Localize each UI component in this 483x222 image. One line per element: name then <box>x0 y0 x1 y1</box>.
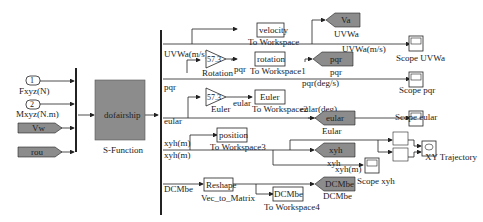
inport-mxyz[interactable]: 2 Mxyz(N.m) <box>16 100 59 119</box>
svg-text:xyh: xyh <box>329 145 343 155</box>
goto-dcmbe[interactable]: DCMbe DCMbe <box>315 177 355 201</box>
svg-text:DCMbe: DCMbe <box>274 189 303 199</box>
svg-text:pqr: pqr <box>330 54 342 64</box>
to-workspace-velocity[interactable]: velocity To Workspace <box>248 23 299 47</box>
svg-text:To Workspace4: To Workspace4 <box>264 202 320 212</box>
svg-text:eular: eular <box>326 113 344 123</box>
from-rou[interactable]: rou <box>18 147 62 157</box>
svg-text:57.3: 57.3 <box>207 55 221 64</box>
svg-text:To Workspace3: To Workspace3 <box>210 142 266 152</box>
goto-pqr[interactable]: pqr pqr <box>313 52 353 77</box>
inport-fxyz[interactable]: 1 Fxyz(N) <box>19 76 50 96</box>
gain-euler[interactable]: 57.3 Euler <box>206 88 231 114</box>
signal-label-xyh1: xyh(m) <box>164 138 191 148</box>
svg-text:2: 2 <box>30 100 34 109</box>
svg-text:To Workspace2: To Workspace2 <box>252 104 308 114</box>
svg-text:DCMbe: DCMbe <box>325 179 354 189</box>
svg-text:Euler: Euler <box>260 92 280 102</box>
scope-xy-trajectory[interactable]: XY Trajectory <box>422 141 477 162</box>
svg-text:position: position <box>219 130 249 140</box>
svg-text:velocity: velocity <box>259 25 288 35</box>
scope-xyh[interactable]: Scope xyh <box>357 158 395 186</box>
reshape-block[interactable]: Reshape Vec_to_Matrix <box>201 178 255 203</box>
signal-label-dcmbe: DCMbe <box>164 184 193 194</box>
scope-pqr[interactable]: Scope pqr <box>399 72 435 95</box>
goto-va[interactable]: Va UVWa <box>326 13 360 39</box>
svg-text:Va: Va <box>341 15 351 25</box>
svg-text:Vw: Vw <box>32 123 45 133</box>
scope-uvwa[interactable]: Scope UVWa <box>396 36 445 63</box>
svg-text:dofairship: dofairship <box>104 110 141 120</box>
to-workspace-position[interactable]: position To Workspace3 <box>210 128 266 152</box>
svg-text:To Workspace: To Workspace <box>248 37 299 47</box>
signal-label-pqr: pqr <box>164 82 176 92</box>
svg-text:Reshape: Reshape <box>206 180 237 190</box>
svg-text:Rotation: Rotation <box>202 68 233 78</box>
svg-text:xyh: xyh <box>327 158 341 168</box>
to-workspace-dcmbe[interactable]: DCMbe To Workspace4 <box>264 187 320 212</box>
signal-label-eular: eular <box>164 116 182 126</box>
svg-text:Scope pqr: Scope pqr <box>399 85 435 95</box>
signal-label-xyh2: xyh(m) <box>164 150 191 160</box>
s-function-block[interactable]: dofairship S-Function <box>95 80 145 155</box>
to-workspace-rotation[interactable]: rotation To Workspace1 <box>250 52 306 76</box>
svg-text:DCMbe: DCMbe <box>323 191 352 201</box>
signal-label-uvwa: UVWa(m/s) <box>164 49 208 59</box>
svg-text:To Workspace1: To Workspace1 <box>250 66 306 76</box>
svg-text:Vec_to_Matrix: Vec_to_Matrix <box>201 193 255 203</box>
simulink-diagram: 1 Fxyz(N) 2 Mxyz(N.m) Vw rou dofairship … <box>0 0 483 222</box>
scope-eular[interactable]: Scope eular <box>395 111 437 126</box>
svg-text:rou: rou <box>31 147 43 157</box>
svg-text:Scope UVWa: Scope UVWa <box>396 53 445 63</box>
svg-text:UVWa: UVWa <box>334 29 359 39</box>
svg-text:57.3: 57.3 <box>207 93 221 102</box>
svg-text:Scope eular: Scope eular <box>395 112 437 122</box>
selector-blocks[interactable] <box>393 132 408 161</box>
svg-text:Eular: Eular <box>322 126 342 136</box>
goto-eular[interactable]: eular Eular <box>315 111 355 136</box>
svg-text:XY Trajectory: XY Trajectory <box>425 152 477 162</box>
svg-text:pqr: pqr <box>330 67 342 77</box>
svg-text:Mxyz(N.m): Mxyz(N.m) <box>16 109 59 119</box>
svg-text:rotation: rotation <box>257 54 285 64</box>
svg-text:Scope xyh: Scope xyh <box>357 176 395 186</box>
to-workspace-euler[interactable]: Euler To Workspace2 <box>252 90 308 114</box>
gain-rotation[interactable]: 57.3 Rotation <box>202 50 233 78</box>
signal-label-pqr-small: pqr <box>234 64 246 74</box>
svg-text:1: 1 <box>30 76 34 85</box>
signal-label-eular-small: eular <box>233 98 251 108</box>
svg-text:S-Function: S-Function <box>103 145 144 155</box>
from-vw[interactable]: Vw <box>18 123 62 133</box>
signal-label-pqr-deg: pqr(deg/s) <box>302 78 339 88</box>
svg-text:Euler: Euler <box>211 104 231 114</box>
svg-text:Fxyz(N): Fxyz(N) <box>19 86 50 96</box>
